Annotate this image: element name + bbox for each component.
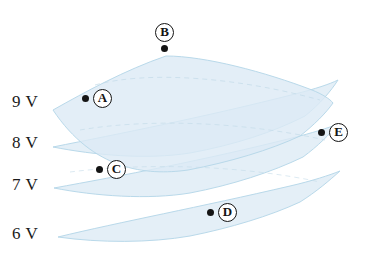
point-marker-a: A xyxy=(82,89,112,108)
point-marker-d: D xyxy=(207,203,237,222)
point-label-b: B xyxy=(155,23,174,42)
point-dot-c xyxy=(96,166,103,173)
point-marker-c: C xyxy=(96,160,126,179)
point-label-e: E xyxy=(329,123,348,142)
point-dot-d xyxy=(207,209,214,216)
voltage-label-7v: 7 V xyxy=(12,176,38,193)
point-dot-a xyxy=(82,95,89,102)
voltage-label-6v: 6 V xyxy=(12,225,38,242)
point-label-a: A xyxy=(93,89,112,108)
point-label-c: C xyxy=(107,160,126,179)
figure-canvas: 9 V 8 V 7 V 6 V A B C D E xyxy=(0,0,375,253)
point-label-d: D xyxy=(218,203,237,222)
voltage-label-8v: 8 V xyxy=(12,134,38,151)
voltage-label-9v: 9 V xyxy=(12,93,38,110)
point-dot-b xyxy=(161,45,168,52)
point-marker-b: B xyxy=(155,23,174,52)
point-marker-e: E xyxy=(318,123,348,142)
point-dot-e xyxy=(318,129,325,136)
